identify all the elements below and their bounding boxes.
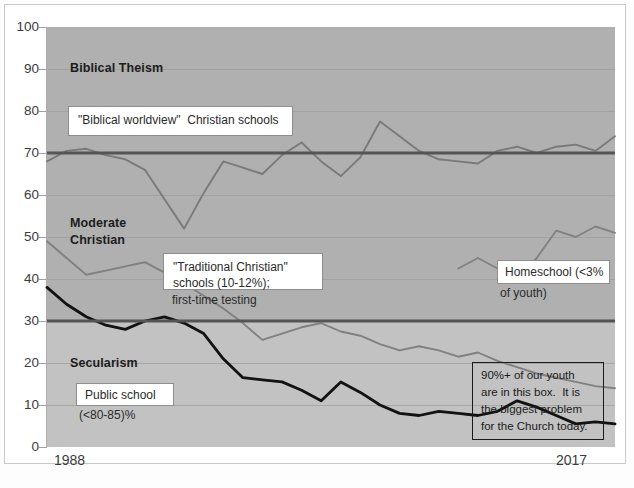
y-tick-label-60: 60 (24, 187, 39, 202)
y-tick-mark-80 (39, 111, 46, 112)
y-tick-mark-60 (39, 195, 46, 196)
callout-traditional-christian: "Traditional Christian"schools (10-12%); (163, 253, 323, 290)
band-label-biblical-theism: Biblical Theism (70, 60, 163, 77)
x-tick-1988: 1988 (54, 452, 85, 468)
series-line-0 (47, 122, 615, 229)
band-label-secularism: Secularism (70, 355, 138, 372)
y-tick-label-50: 50 (24, 229, 39, 244)
y-tick-mark-10 (39, 405, 46, 406)
y-tick-mark-20 (39, 363, 46, 364)
y-tick-mark-100 (39, 27, 46, 28)
y-tick-mark-40 (39, 279, 46, 280)
callout-public-school: Public school (76, 383, 174, 406)
y-axis: 1009080706050403020100 (0, 27, 47, 447)
callout-traditional-line1: "Traditional Christian" (173, 260, 288, 274)
x-tick-2017: 2017 (556, 452, 587, 468)
callout-youth-box: 90%+ of our youth are in this box. It is… (472, 362, 604, 440)
y-tick-mark-30 (39, 321, 46, 322)
note-homeschool-of-youth: of youth) (500, 285, 547, 301)
y-tick-mark-90 (39, 69, 46, 70)
y-tick-label-90: 90 (24, 61, 39, 76)
band-label-christian: Christian (70, 232, 125, 249)
y-tick-label-80: 80 (24, 103, 39, 118)
screenshot-root: 1009080706050403020100 1988 2017 Biblica… (0, 0, 634, 488)
y-tick-label-10: 10 (24, 397, 39, 412)
callout-traditional-line2: schools (10-12%); (173, 276, 270, 290)
y-tick-label-40: 40 (24, 271, 39, 286)
band-label-moderate: Moderate (70, 215, 126, 232)
callout-homeschool: Homeschool (<3% (497, 260, 610, 284)
y-tick-mark-0 (39, 447, 46, 448)
note-first-time-testing: first-time testing (172, 292, 257, 308)
y-tick-label-70: 70 (24, 145, 39, 160)
y-tick-label-0: 0 (31, 439, 39, 454)
y-tick-label-100: 100 (16, 19, 39, 34)
y-tick-label-30: 30 (24, 313, 39, 328)
y-tick-mark-50 (39, 237, 46, 238)
note-public-school-pct: (<80-85)% (79, 407, 135, 423)
y-tick-label-20: 20 (24, 355, 39, 370)
y-tick-mark-70 (39, 153, 46, 154)
callout-biblical-worldview: "Biblical worldview" Christian schools (68, 106, 293, 136)
